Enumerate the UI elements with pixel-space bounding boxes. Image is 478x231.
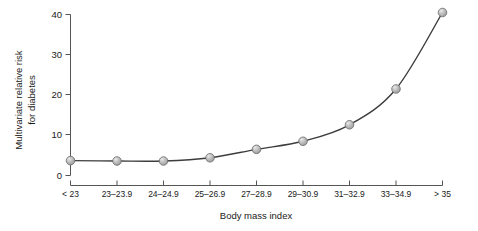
x-tick-label-2: 24–24.9 xyxy=(148,189,179,199)
y-axis-title-line2: for diabetes xyxy=(26,75,37,125)
x-tick-label-5: 29–30.9 xyxy=(288,189,319,199)
x-axis: < 23 23–23.9 24–24.9 25–26.9 27–28.9 29–… xyxy=(62,181,451,200)
data-point-marker xyxy=(438,8,447,17)
y-axis: 40 30 20 10 0 xyxy=(51,9,70,181)
y-tick-label-20: 20 xyxy=(51,89,62,100)
data-point-marker xyxy=(392,85,401,94)
data-point-marker xyxy=(206,153,215,162)
y-axis-title: Multivariate relative risk for diabetes xyxy=(13,50,37,149)
data-point-marker xyxy=(159,157,168,166)
data-series-line xyxy=(71,12,443,161)
y-tick-label-10: 10 xyxy=(51,129,62,140)
x-tick-label-0: < 23 xyxy=(62,189,79,199)
data-point-marker xyxy=(345,120,354,129)
x-tick-label-8: > 35 xyxy=(434,189,451,199)
data-point-marker xyxy=(66,156,75,165)
x-tick-label-4: 27–28.9 xyxy=(241,189,272,199)
y-tick-label-0: 0 xyxy=(57,170,62,181)
y-tick-label-30: 30 xyxy=(51,49,62,60)
y-tick-label-40: 40 xyxy=(51,9,62,20)
data-point-marker xyxy=(299,137,308,146)
x-tick-label-6: 31–32.9 xyxy=(334,189,365,199)
x-axis-title: Body mass index xyxy=(220,210,293,221)
y-axis-title-line1: Multivariate relative risk xyxy=(13,50,24,149)
x-tick-label-1: 23–23.9 xyxy=(102,189,133,199)
x-tick-label-7: 33–34.9 xyxy=(381,189,412,199)
data-markers-group xyxy=(66,8,447,165)
line-chart-plot: 40 30 20 10 0 < 23 23–23.9 24–24.9 25–26… xyxy=(0,0,478,231)
data-point-marker xyxy=(252,145,261,154)
chart-figure: 40 30 20 10 0 < 23 23–23.9 24–24.9 25–26… xyxy=(0,0,478,231)
x-tick-label-3: 25–26.9 xyxy=(195,189,226,199)
data-point-marker xyxy=(113,157,122,166)
